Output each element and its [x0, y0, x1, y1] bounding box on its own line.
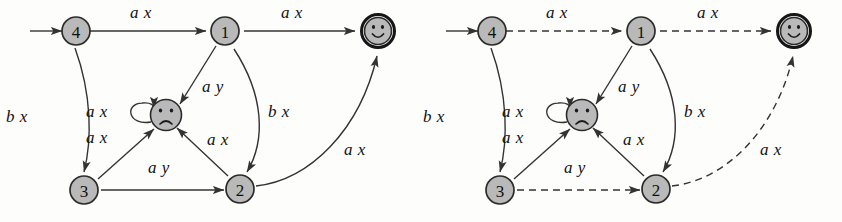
- edge-label-4-to-3: b x: [6, 107, 28, 126]
- edge-label-3-to-reject: a x: [502, 128, 524, 147]
- state-3[interactable]: 3: [70, 176, 98, 204]
- state-sad-face[interactable]: [151, 100, 182, 131]
- edge-label-2-to-accept: a x: [760, 140, 782, 159]
- edge-label-3-to-2: a y: [564, 158, 586, 177]
- state-1[interactable]: 1: [211, 17, 239, 45]
- state-2-label: 2: [236, 181, 245, 200]
- automaton-diagram-left: a x a x b x a y b x a x a x a x: [0, 0, 421, 222]
- state-1[interactable]: 1: [627, 17, 655, 45]
- edge-label-1-to-reject: a y: [618, 77, 640, 96]
- sad-face-eye-left-icon: [159, 108, 162, 112]
- edge-2-to-accept: [256, 56, 377, 186]
- sad-face-eye-right-icon: [586, 108, 589, 112]
- state-sad-face[interactable]: [567, 100, 598, 131]
- edge-label-3-to-2: a y: [148, 158, 170, 177]
- state-1-label: 1: [221, 23, 230, 42]
- edge-label-2-to-reject: a x: [207, 130, 229, 149]
- edge-label-4-to-1: a x: [130, 3, 152, 22]
- edge-1-to-2: [234, 49, 259, 172]
- state-4[interactable]: 4: [62, 17, 90, 45]
- edge-label-reject-self-loop: a x: [86, 102, 108, 121]
- edge-label-reject-self-loop: a x: [502, 102, 524, 121]
- happy-face-eye-left-icon: [788, 25, 791, 29]
- edge-label-1-to-2: b x: [684, 102, 706, 121]
- state-2[interactable]: 2: [226, 175, 254, 203]
- edge-label-2-to-accept: a x: [344, 140, 366, 159]
- state-1-label: 1: [637, 23, 646, 42]
- sad-face-eye-left-icon: [575, 108, 578, 112]
- happy-face-eye-right-icon: [797, 25, 800, 29]
- state-3-label: 3: [496, 182, 505, 201]
- edge-label-4-to-3: b x: [423, 107, 445, 126]
- happy-face-eye-left-icon: [372, 25, 375, 29]
- edge-2-to-accept: [672, 56, 793, 186]
- edge-1-to-2: [650, 49, 675, 172]
- state-3-label: 3: [80, 182, 89, 201]
- sad-face-eye-right-icon: [170, 108, 173, 112]
- edge-label-2-to-reject: a x: [623, 130, 645, 149]
- state-3[interactable]: 3: [486, 176, 514, 204]
- edge-label-1-to-2: b x: [268, 102, 290, 121]
- automaton-diagram-right: a x a x b x a y b x a x a x a x: [421, 0, 842, 222]
- state-4[interactable]: 4: [478, 17, 506, 45]
- happy-face-eye-right-icon: [381, 25, 384, 29]
- state-4-label: 4: [72, 23, 81, 42]
- edge-label-4-to-1: a x: [546, 3, 568, 22]
- figure-root: a x a x b x a y b x a x a x a x: [0, 0, 842, 222]
- edge-label-3-to-reject: a x: [86, 128, 108, 147]
- state-happy-face-accept[interactable]: [778, 15, 811, 48]
- edge-label-1-to-accept: a x: [281, 3, 303, 22]
- state-2-label: 2: [652, 181, 661, 200]
- edge-label-1-to-accept: a x: [697, 3, 719, 22]
- automaton-panel-right: a x a x b x a y b x a x a x a x: [421, 0, 842, 222]
- state-2[interactable]: 2: [642, 175, 670, 203]
- automaton-panel-left: a x a x b x a y b x a x a x a x: [0, 0, 421, 222]
- edge-label-1-to-reject: a y: [202, 77, 224, 96]
- state-4-label: 4: [488, 23, 497, 42]
- state-happy-face-accept[interactable]: [362, 15, 395, 48]
